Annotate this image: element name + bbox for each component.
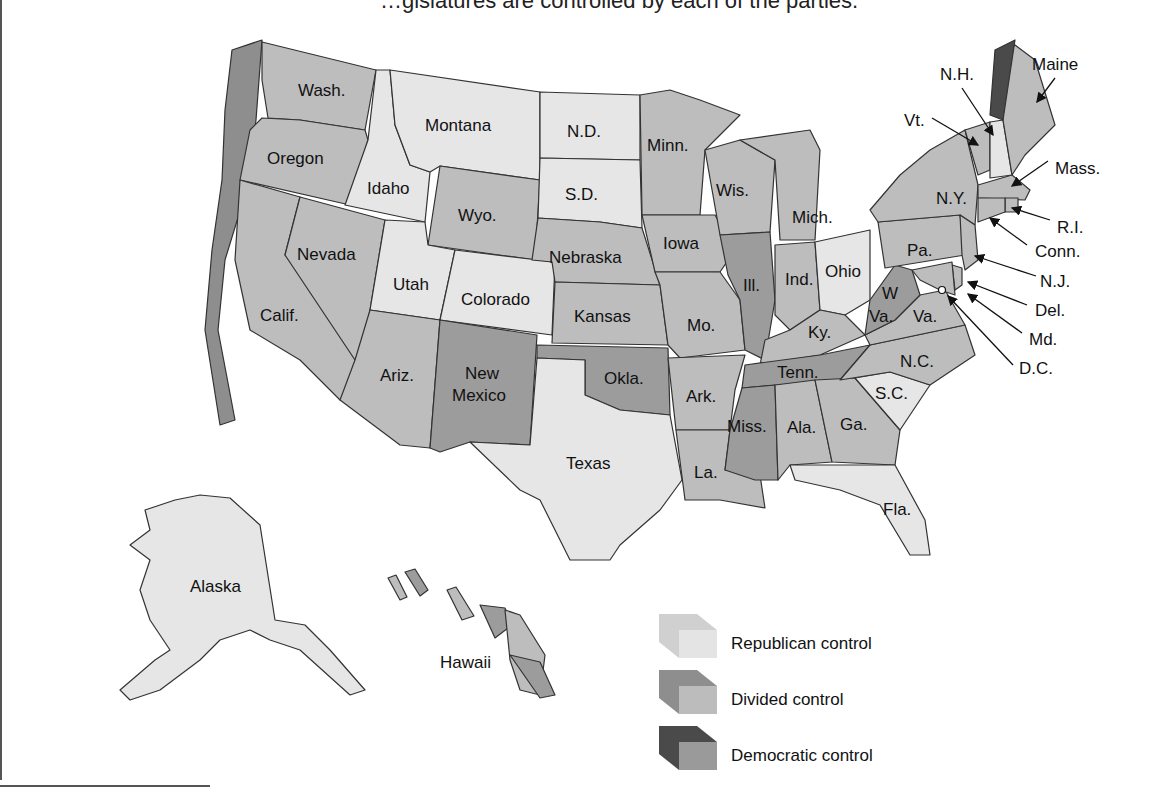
legend-item-divided: Divided control xyxy=(655,668,955,724)
label-del: Del. xyxy=(1035,301,1065,320)
label-sd: S.D. xyxy=(565,185,598,204)
label-dc: D.C. xyxy=(1019,359,1053,378)
label-minn: Minn. xyxy=(647,136,689,155)
label-new-mexico-1: New xyxy=(465,364,500,383)
label-mich: Mich. xyxy=(792,208,833,227)
label-montana: Montana xyxy=(425,116,492,135)
label-ind: Ind. xyxy=(785,270,813,289)
label-nevada: Nevada xyxy=(297,245,356,264)
label-nj: N.J. xyxy=(1040,272,1070,291)
label-colorado: Colorado xyxy=(461,290,530,309)
label-wash: Wash. xyxy=(298,81,346,100)
label-maine: Maine xyxy=(1032,55,1078,74)
legend-swatch-republican xyxy=(657,612,719,658)
label-ala: Ala. xyxy=(787,418,816,437)
map-legend: Republican control Divided control Democ… xyxy=(655,612,955,780)
state-alaska[interactable] xyxy=(120,495,365,700)
label-ill: Ill. xyxy=(743,276,760,295)
label-kansas: Kansas xyxy=(574,307,631,326)
label-oregon: Oregon xyxy=(267,149,324,168)
legend-label-republican: Republican control xyxy=(731,634,872,654)
label-vt: Vt. xyxy=(904,111,925,130)
legend-item-democratic: Democratic control xyxy=(655,724,955,780)
label-hawaii: Hawaii xyxy=(440,653,491,672)
label-wyo: Wyo. xyxy=(458,206,497,225)
label-la: La. xyxy=(694,463,718,482)
dc-marker[interactable] xyxy=(939,287,946,294)
label-ri: R.I. xyxy=(1057,218,1083,237)
label-conn: Conn. xyxy=(1035,242,1080,261)
label-nh: N.H. xyxy=(940,65,974,84)
label-ga: Ga. xyxy=(840,415,867,434)
label-iowa: Iowa xyxy=(663,234,699,253)
label-md: Md. xyxy=(1029,330,1057,349)
label-wis: Wis. xyxy=(716,181,749,200)
label-fla: Fla. xyxy=(883,500,911,519)
label-va: Va. xyxy=(913,307,937,326)
legend-label-democratic: Democratic control xyxy=(731,746,873,766)
label-ny: N.Y. xyxy=(936,189,967,208)
label-ariz: Ariz. xyxy=(380,366,414,385)
label-nc: N.C. xyxy=(900,352,934,371)
state-mo[interactable] xyxy=(655,272,745,358)
legend-swatch-democratic xyxy=(657,724,719,770)
legend-label-divided: Divided control xyxy=(731,690,843,710)
legend-item-republican: Republican control xyxy=(655,612,955,668)
us-legislature-control-map: Wash. Oregon Calif. Idaho Nevada Montana… xyxy=(0,0,1150,800)
label-calif: Calif. xyxy=(260,306,299,325)
label-pa: Pa. xyxy=(907,241,933,260)
label-miss: Miss. xyxy=(727,417,767,436)
label-ark: Ark. xyxy=(686,387,716,406)
label-mo: Mo. xyxy=(687,316,715,335)
state-hawaii[interactable] xyxy=(388,569,555,698)
label-nebraska: Nebraska xyxy=(549,248,622,267)
label-tenn: Tenn. xyxy=(777,363,819,382)
label-texas: Texas xyxy=(566,454,610,473)
label-sc: S.C. xyxy=(875,384,908,403)
label-utah: Utah xyxy=(393,275,429,294)
label-nd: N.D. xyxy=(567,122,601,141)
label-ky: Ky. xyxy=(808,323,831,342)
label-ohio: Ohio xyxy=(825,262,861,281)
state-ny[interactable] xyxy=(870,130,978,225)
label-wva-2: Va. xyxy=(869,307,893,326)
label-okla: Okla. xyxy=(604,369,644,388)
label-new-mexico-2: Mexico xyxy=(452,386,506,405)
label-alaska: Alaska xyxy=(190,577,242,596)
label-mass: Mass. xyxy=(1055,159,1100,178)
label-idaho: Idaho xyxy=(367,179,410,198)
label-wva-1: W xyxy=(882,284,898,303)
legend-swatch-divided xyxy=(657,668,719,714)
